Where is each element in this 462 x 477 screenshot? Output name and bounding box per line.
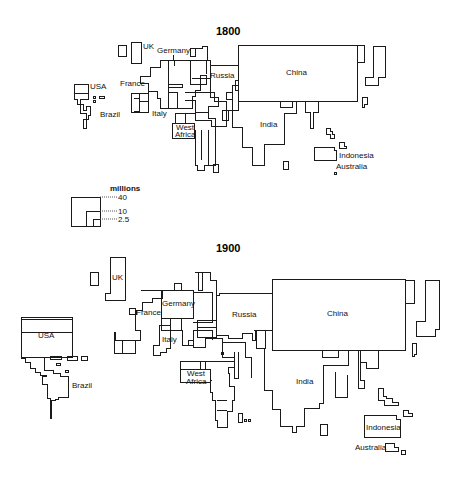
population-cartogram: 1800 UK Germany France Italy Russia (0, 0, 462, 477)
region-iberia-1900 (114, 332, 135, 353)
label-west-africa-2-1800: Africa (175, 130, 196, 139)
region-japan-1800 (365, 46, 385, 85)
label-usa-1800: USA (90, 82, 107, 91)
label-germany-1800: Germany (157, 46, 190, 55)
region-reunion-1900 (248, 419, 250, 421)
region-caribbean-1900d (56, 363, 60, 365)
region-mauritius-1900 (244, 419, 246, 421)
legend-value-40: 40 (118, 193, 127, 202)
region-persia-1800 (222, 110, 228, 120)
region-italy-1800 (168, 92, 177, 108)
region-madagascar-1900 (238, 413, 242, 422)
label-west-africa-2-1900: Africa (186, 377, 207, 386)
label-australia-1800: Australia (336, 162, 368, 171)
region-caribbean-1900c (81, 356, 87, 360)
region-afghan-1800 (226, 92, 232, 99)
legend-value-2-5: 2.5 (118, 215, 130, 224)
region-se-asia-1900 (358, 350, 364, 388)
label-china-1900: China (327, 309, 348, 318)
region-africa-1800 (175, 113, 215, 170)
label-australia-1900: Australia (355, 443, 387, 452)
region-siam-1900 (360, 350, 378, 368)
region-balkans-1800 (185, 92, 218, 112)
map-title-1900: 1900 (216, 242, 240, 254)
region-caribbean-1800 (93, 96, 95, 98)
region-japan-1900 (416, 280, 439, 336)
region-latin-america-1800 (74, 93, 90, 128)
region-ceylon-1800 (283, 161, 288, 169)
region-taiwan-1900 (412, 343, 416, 356)
region-austria-1900 (197, 320, 216, 337)
region-celebes-1900 (403, 410, 412, 416)
label-brazil-1900: Brazil (72, 381, 92, 390)
label-russia-1800: Russia (210, 71, 235, 80)
region-java-1800 (314, 147, 336, 160)
map-1900: 1900 UK France Germany Italy Russia (21, 242, 439, 454)
region-portugal-1900 (114, 340, 122, 353)
map-1800: 1800 UK Germany France Italy Russia (74, 25, 385, 174)
label-india-1800: India (260, 120, 278, 129)
region-taiwan-1800 (362, 97, 367, 107)
region-denmark-1900 (174, 283, 181, 290)
region-latin-america-1900 (21, 357, 68, 418)
region-se-asia-1800 (305, 101, 318, 128)
region-korea-1800 (357, 45, 364, 62)
region-germany-1800 (168, 60, 206, 108)
region-ottoman-1900 (182, 338, 234, 357)
label-indonesia-1800: Indonesia (339, 151, 374, 160)
region-caribbean-1800b (93, 100, 95, 102)
region-korea-1900 (405, 280, 414, 303)
region-usa-1800 (74, 84, 88, 93)
region-poland-1900 (193, 292, 212, 322)
label-brazil-1800: Brazil (100, 110, 120, 119)
label-france-1800: France (120, 79, 145, 88)
region-philippines-1900 (378, 388, 398, 405)
label-germany-1900: Germany (162, 299, 195, 308)
label-indonesia-1900: Indonesia (366, 423, 401, 432)
region-tibet-1800 (280, 101, 292, 107)
region-new-zealand-1900 (401, 450, 405, 454)
map-title-1800: 1800 (216, 25, 240, 37)
region-philippines-1800 (326, 128, 334, 138)
label-italy-1900: Italy (162, 335, 177, 344)
label-china-1800: China (286, 68, 307, 77)
region-afghan-1900 (254, 330, 265, 348)
legend: millions 40 10 2.5 (71, 184, 141, 226)
region-arabia-1900 (234, 352, 238, 378)
label-uk-1800: UK (143, 42, 155, 51)
region-australia-1900 (385, 443, 398, 451)
region-small-north-1800 (190, 48, 195, 56)
region-caribbean-1800c (99, 96, 104, 98)
region-persia-1900 (222, 342, 251, 378)
region-scandinavia-1800 (192, 46, 238, 65)
region-ceylon-1900 (320, 424, 327, 435)
label-uk-1900: UK (112, 273, 124, 282)
region-portugal-1800 (134, 98, 139, 111)
region-ireland-1900 (90, 272, 98, 285)
label-usa-1900: USA (38, 331, 55, 340)
region-caribbean-1900e (65, 370, 68, 372)
label-france-1900: France (136, 308, 161, 317)
region-poland-1800 (190, 60, 206, 74)
legend-title: millions (110, 184, 141, 193)
label-russia-1900: Russia (232, 310, 257, 319)
label-italy-1800: Italy (152, 109, 167, 118)
region-burma-1900 (335, 372, 347, 397)
label-india-1900: India (296, 377, 314, 386)
region-australia-1800 (334, 172, 336, 174)
legend-square-2-5 (93, 219, 100, 226)
region-uk-1800 (131, 42, 141, 63)
region-tibet-1900 (322, 350, 338, 357)
region-celebes-1800 (339, 142, 346, 148)
region-ireland-1800 (118, 45, 126, 56)
